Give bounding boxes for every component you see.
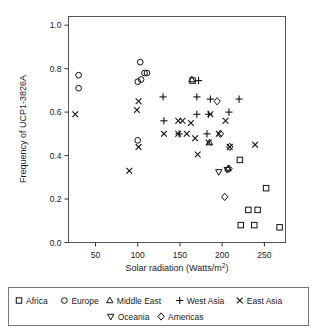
- y-axis-title: Frequency of UCP1-3826A: [18, 75, 28, 183]
- data-point: [161, 131, 167, 137]
- data-point: [193, 111, 200, 118]
- legend-label: Americas: [168, 312, 203, 322]
- y-tick-label: 0.8: [50, 64, 62, 74]
- legend-label: Middle East: [117, 296, 162, 306]
- data-point: [235, 96, 242, 103]
- legend-label: Oceania: [118, 312, 150, 322]
- data-point: [184, 131, 190, 137]
- data-point: [223, 118, 229, 124]
- data-point: [136, 144, 142, 150]
- data-point: [160, 117, 167, 124]
- legend-label: Europe: [71, 296, 99, 306]
- plot-frame: [69, 17, 286, 243]
- legend-item-middle-east[interactable]: Middle East: [107, 296, 162, 306]
- data-point: [214, 98, 220, 105]
- data-point: [255, 207, 260, 212]
- x-axis-title: Solar radiation (Watts/m2): [126, 262, 229, 274]
- data-point: [160, 93, 167, 100]
- data-point: [188, 120, 194, 126]
- legend-marker-circle-icon: [62, 298, 68, 304]
- data-point: [192, 135, 198, 141]
- data-point: [277, 225, 282, 230]
- legend-marker-square-icon: [16, 298, 21, 303]
- legend-item-americas[interactable]: Americas: [158, 312, 204, 322]
- data-point: [126, 168, 132, 174]
- data-point: [193, 93, 200, 100]
- data-point: [216, 170, 222, 176]
- y-tick-label: 0.4: [50, 151, 62, 161]
- data-point: [205, 111, 212, 118]
- legend-marker-cross-icon: [237, 298, 243, 304]
- data-point: [237, 157, 242, 162]
- data-point: [207, 96, 214, 103]
- data-point: [176, 130, 183, 137]
- legend-box: [9, 288, 309, 326]
- data-point: [225, 109, 232, 116]
- legend-label: West Asia: [187, 296, 225, 306]
- series-africa: [190, 78, 282, 230]
- data-point: [195, 152, 201, 158]
- legend-marker-triangle-down-icon: [108, 314, 114, 320]
- legend-item-oceania[interactable]: Oceania: [108, 312, 150, 322]
- x-axis-ticks: 50100150200250: [91, 243, 272, 260]
- x-tick-label: 100: [131, 250, 145, 260]
- data-point: [246, 207, 251, 212]
- legend-marker-diamond-icon: [158, 313, 164, 320]
- x-tick-label: 150: [173, 250, 187, 260]
- scatter-plot-figure: 0.00.20.40.60.81.0 50100150200250 Freque…: [0, 0, 317, 332]
- data-point: [136, 98, 142, 104]
- y-axis-ticks: 0.00.20.40.60.81.0: [50, 20, 69, 247]
- data-point: [72, 111, 78, 117]
- data-point: [195, 77, 202, 84]
- legend-marker-plus-icon: [176, 297, 183, 304]
- legend-entries: AfricaEuropeMiddle EastWest AsiaEast Asi…: [16, 296, 282, 322]
- data-point: [135, 138, 141, 144]
- series-americas: [214, 98, 233, 201]
- legend-item-east-asia[interactable]: East Asia: [237, 296, 283, 306]
- data-point: [252, 222, 257, 227]
- data-point: [238, 222, 243, 227]
- data-point: [137, 59, 143, 65]
- legend-item-west-asia[interactable]: West Asia: [176, 296, 224, 306]
- legend-marker-triangle-icon: [107, 297, 113, 303]
- y-tick-label: 1.0: [50, 20, 62, 30]
- legend-item-africa[interactable]: Africa: [16, 296, 48, 306]
- legend-item-europe[interactable]: Europe: [62, 296, 100, 306]
- data-point: [263, 185, 268, 190]
- data-points-layer: [72, 59, 282, 230]
- data-point: [180, 118, 186, 124]
- y-tick-label: 0.6: [50, 107, 62, 117]
- legend-label: Africa: [26, 296, 48, 306]
- data-point: [222, 193, 228, 200]
- series-east-asia: [72, 98, 258, 173]
- x-tick-label: 200: [215, 250, 229, 260]
- data-point: [252, 142, 258, 148]
- data-point: [134, 107, 140, 113]
- data-point: [76, 85, 82, 91]
- series-west-asia: [160, 77, 243, 137]
- data-point: [203, 130, 210, 137]
- svg-text:Solar radiation (Watts/m2): Solar radiation (Watts/m2): [126, 262, 229, 274]
- y-tick-label: 0.0: [50, 238, 62, 248]
- x-tick-label: 250: [257, 250, 271, 260]
- data-point: [76, 72, 82, 78]
- legend-label: East Asia: [247, 296, 283, 306]
- y-tick-label: 0.2: [50, 194, 62, 204]
- x-tick-label: 50: [91, 250, 101, 260]
